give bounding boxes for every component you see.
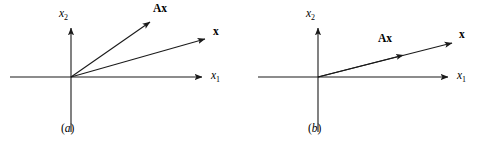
panel-a-x2-axis-label-subscript: 2 xyxy=(64,13,68,22)
panel-b-vector-ax xyxy=(318,56,400,77)
panel-a-vector-ax xyxy=(71,22,150,77)
panel-b-vector-x-label: x xyxy=(459,29,465,41)
panel-a xyxy=(10,22,205,132)
panel-a-x1-axis-label: x1 xyxy=(211,70,220,82)
panel-b-caption: (b) xyxy=(308,123,321,135)
panel-b xyxy=(258,28,452,132)
panel-a-x1-axis-label-subscript: 1 xyxy=(216,75,220,84)
figure-root: x2 x1 Ax x (a) x2 x1 Ax x (b) xyxy=(0,0,489,143)
panel-a-caption: (a) xyxy=(61,123,74,135)
panel-b-x2-axis-label-subscript: 2 xyxy=(311,13,315,22)
panel-b-vector-ax-label: Ax xyxy=(378,33,392,45)
panel-a-vector-x-label: x xyxy=(213,26,219,38)
panel-b-x1-axis-label-subscript: 1 xyxy=(462,75,466,84)
panel-a-caption-letter: a xyxy=(65,122,71,134)
panel-b-x2-axis-label: x2 xyxy=(306,8,315,20)
panel-b-x1-axis-label: x1 xyxy=(457,70,466,82)
panel-b-caption-letter: b xyxy=(312,122,318,134)
panel-a-x2-axis-label: x2 xyxy=(59,8,68,20)
panel-a-vector-ax-label: Ax xyxy=(153,3,167,15)
panel-a-vector-x xyxy=(71,39,205,77)
